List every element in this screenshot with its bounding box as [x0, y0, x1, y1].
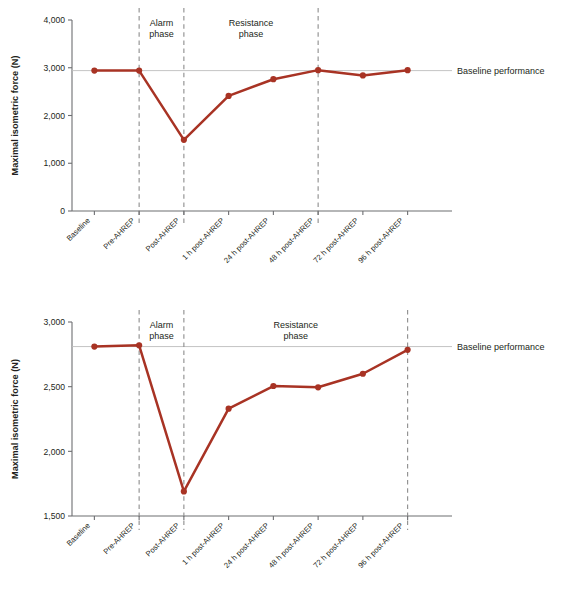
data-point-marker — [226, 93, 232, 99]
resistance-phase-label-line2: phase — [283, 331, 308, 341]
x-axis-tick-label: Pre-AHREP — [102, 216, 137, 251]
y-axis-title: Maximal isometric force (N) — [10, 359, 20, 479]
x-axis-tick-label: 1 h post-AHREP — [180, 216, 226, 262]
data-point-marker — [136, 342, 142, 348]
figure-two-panel-line-charts: 01,0002,0003,0004,000Maximal isometric f… — [0, 0, 563, 591]
y-axis-tick-label: 2,000 — [43, 111, 65, 121]
x-axis-tick-label: 96 h post-AHREP — [356, 216, 405, 265]
data-series-line — [94, 70, 407, 140]
data-point-marker — [181, 137, 187, 143]
x-axis-tick-label: 96 h post-AHREP — [356, 521, 405, 570]
alarm-phase-label-line2: phase — [149, 29, 174, 39]
resistance-phase-label-line2: phase — [239, 29, 264, 39]
data-point-marker — [91, 68, 97, 74]
alarm-phase-label-line2: phase — [149, 331, 174, 341]
y-axis-tick-label: 4,000 — [43, 15, 65, 25]
resistance-phase-label: Resistance — [229, 18, 274, 28]
x-axis-tick-label: 72 h post-AHREP — [312, 521, 361, 570]
data-point-marker — [136, 68, 142, 74]
y-axis-tick-label: 2,500 — [43, 382, 65, 392]
x-axis-tick-label: 24 h post-AHREP — [222, 216, 271, 265]
y-axis-tick-label: 2,000 — [43, 447, 65, 457]
alarm-phase-label: Alarm — [150, 320, 174, 330]
x-axis-tick-label: 72 h post-AHREP — [312, 216, 361, 265]
baseline-performance-label: Baseline performance — [457, 66, 545, 76]
baseline-performance-label: Baseline performance — [457, 342, 545, 352]
data-point-marker — [181, 488, 187, 494]
x-axis-tick-label: Pre-AHREP — [102, 521, 137, 556]
chart-panel-bottom: 1,5002,0002,5003,000Maximal isometric fo… — [0, 291, 563, 591]
x-axis-tick-label: 48 h post-AHREP — [267, 216, 316, 265]
data-point-marker — [91, 343, 97, 349]
y-axis-tick-label: 1,500 — [43, 511, 65, 521]
y-axis-tick-label: 1,000 — [43, 158, 65, 168]
x-axis-tick-label: Post-AHREP — [144, 216, 181, 253]
x-axis-tick-label: 24 h post-AHREP — [222, 521, 271, 570]
x-axis-tick-label: 1 h post-AHREP — [180, 521, 226, 567]
x-axis-tick-label: Baseline — [65, 216, 92, 243]
data-point-marker — [226, 406, 232, 412]
data-point-marker — [270, 383, 276, 389]
data-point-marker — [360, 371, 366, 377]
y-axis-tick-label: 0 — [60, 206, 65, 216]
data-series-line — [94, 345, 407, 491]
resistance-phase-label: Resistance — [273, 320, 318, 330]
data-point-marker — [270, 76, 276, 82]
x-axis-tick-label: 48 h post-AHREP — [267, 521, 316, 570]
data-point-marker — [360, 72, 366, 78]
y-axis-tick-label: 3,000 — [43, 63, 65, 73]
data-point-marker — [405, 67, 411, 73]
y-axis-title: Maximal isometric force (N) — [10, 56, 20, 176]
data-point-marker — [315, 384, 321, 390]
y-axis-tick-label: 3,000 — [43, 317, 65, 327]
alarm-phase-label: Alarm — [150, 18, 174, 28]
data-point-marker — [405, 347, 411, 353]
x-axis-tick-label: Baseline — [65, 521, 92, 548]
data-point-marker — [315, 67, 321, 73]
chart-panel-top: 01,0002,0003,0004,000Maximal isometric f… — [0, 0, 563, 295]
x-axis-tick-label: Post-AHREP — [144, 521, 181, 558]
